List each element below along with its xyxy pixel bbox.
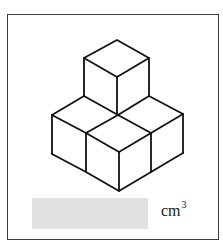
unit-label: cm3	[161, 203, 187, 219]
front-cube	[86, 115, 151, 191]
unit-exponent: 3	[182, 199, 187, 210]
top-cube	[84, 40, 149, 115]
base-outline	[52, 153, 183, 191]
unit-base: cm	[161, 202, 181, 219]
answer-input-box[interactable]	[32, 198, 148, 229]
